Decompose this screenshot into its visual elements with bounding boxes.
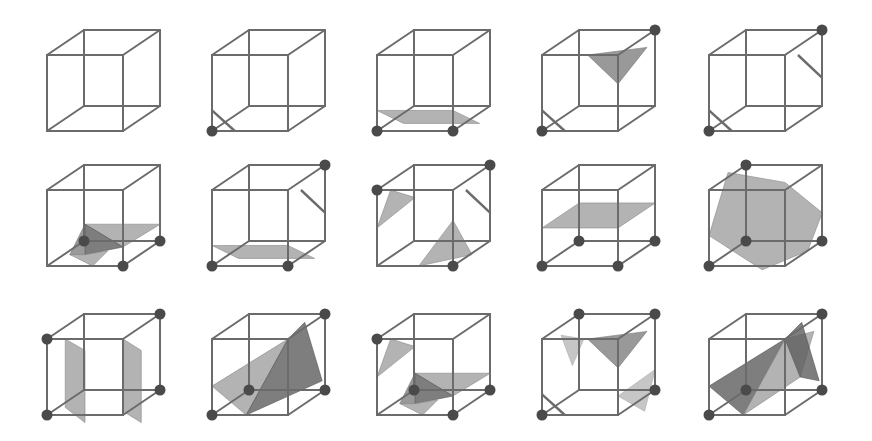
marked-vertex-dot bbox=[817, 309, 828, 320]
cube-edge bbox=[212, 30, 249, 55]
marked-vertex-dot bbox=[650, 309, 661, 320]
cube-case-7 bbox=[372, 160, 496, 272]
cube-case-4 bbox=[704, 25, 828, 137]
cube-edge bbox=[542, 165, 579, 190]
cube-case-8 bbox=[537, 165, 661, 272]
marked-vertex-dot bbox=[537, 261, 548, 272]
marked-vertex-dot bbox=[372, 185, 383, 196]
marked-vertex-dot bbox=[613, 261, 624, 272]
isosurface-triangle bbox=[377, 339, 415, 377]
marked-vertex-dot bbox=[207, 261, 218, 272]
cube-case-0 bbox=[47, 30, 160, 131]
marked-vertex-dot bbox=[817, 385, 828, 396]
cube-edge bbox=[47, 165, 84, 190]
marked-vertex-dot bbox=[817, 25, 828, 36]
cube-edge bbox=[212, 314, 249, 339]
marked-vertex-dot bbox=[155, 309, 166, 320]
cube-edge bbox=[785, 30, 822, 55]
cube-edge bbox=[453, 390, 490, 415]
cube-edge bbox=[542, 314, 579, 339]
isosurface-triangle bbox=[542, 203, 655, 228]
cube-edge bbox=[123, 314, 160, 339]
cube-case-10 bbox=[42, 309, 166, 423]
isosurface-triangle bbox=[65, 339, 85, 423]
marked-vertex-dot bbox=[42, 410, 53, 421]
marked-vertex-dot bbox=[448, 410, 459, 421]
cube-edge bbox=[785, 106, 822, 131]
marching-cubes-figure bbox=[0, 0, 872, 441]
marked-vertex-dot bbox=[704, 410, 715, 421]
cube-cases-grid bbox=[42, 25, 828, 423]
marked-vertex-dot bbox=[118, 261, 129, 272]
marked-vertex-dot bbox=[485, 385, 496, 396]
marked-vertex-dot bbox=[320, 309, 331, 320]
cube-case-11 bbox=[207, 309, 331, 421]
marked-vertex-dot bbox=[155, 236, 166, 247]
cube-edge bbox=[123, 165, 160, 190]
cube-edge bbox=[123, 30, 160, 55]
cube-edge bbox=[618, 106, 655, 131]
cube-edge bbox=[785, 165, 822, 190]
isosurface-sliver bbox=[466, 190, 490, 213]
cube-edge bbox=[453, 314, 490, 339]
isosurface-triangle bbox=[377, 190, 415, 228]
cube-case-9 bbox=[704, 160, 828, 272]
cube-edge bbox=[47, 314, 84, 339]
marked-vertex-dot bbox=[741, 160, 752, 171]
cube-edge bbox=[123, 106, 160, 131]
marked-vertex-dot bbox=[372, 126, 383, 137]
marked-vertex-dot bbox=[79, 236, 90, 247]
marked-vertex-dot bbox=[42, 334, 53, 345]
marked-vertex-dot bbox=[741, 236, 752, 247]
marked-vertex-dot bbox=[650, 236, 661, 247]
cube-case-13 bbox=[537, 309, 661, 421]
cube-edge bbox=[618, 165, 655, 190]
cube-edge bbox=[377, 30, 414, 55]
marked-vertex-dot bbox=[207, 410, 218, 421]
cube-edge bbox=[288, 30, 325, 55]
marked-vertex-dot bbox=[485, 160, 496, 171]
marked-vertex-dot bbox=[372, 334, 383, 345]
cube-edge bbox=[709, 314, 746, 339]
cube-edge bbox=[377, 241, 414, 266]
cube-case-5 bbox=[47, 165, 166, 272]
marked-vertex-dot bbox=[817, 236, 828, 247]
marked-vertex-dot bbox=[741, 385, 752, 396]
cube-edge bbox=[453, 30, 490, 55]
marked-vertex-dot bbox=[537, 410, 548, 421]
cube-edge bbox=[785, 390, 822, 415]
cube-edge bbox=[453, 165, 490, 190]
cube-edge bbox=[377, 314, 414, 339]
cube-case-14 bbox=[704, 309, 828, 421]
marked-vertex-dot bbox=[704, 126, 715, 137]
cube-edge bbox=[123, 241, 160, 266]
cube-edge bbox=[47, 30, 84, 55]
cube-case-3 bbox=[537, 25, 661, 137]
cube-edge bbox=[377, 165, 414, 190]
marked-vertex-dot bbox=[574, 309, 585, 320]
isosurface-triangle bbox=[123, 339, 141, 423]
cube-case-2 bbox=[372, 30, 491, 137]
marked-vertex-dot bbox=[704, 261, 715, 272]
marked-vertex-dot bbox=[155, 385, 166, 396]
isosurface-sliver bbox=[798, 55, 822, 78]
cube-edge bbox=[542, 30, 579, 55]
cube-case-1 bbox=[207, 30, 326, 137]
marked-vertex-dot bbox=[283, 261, 294, 272]
cube-case-12 bbox=[372, 314, 496, 421]
marked-vertex-dot bbox=[409, 385, 420, 396]
marked-vertex-dot bbox=[537, 126, 548, 137]
cube-edge bbox=[618, 241, 655, 266]
cube-edge bbox=[709, 30, 746, 55]
marked-vertex-dot bbox=[448, 261, 459, 272]
marked-vertex-dot bbox=[244, 385, 255, 396]
cube-case-6 bbox=[207, 160, 331, 272]
marked-vertex-dot bbox=[320, 385, 331, 396]
cube-edge bbox=[47, 106, 84, 131]
marked-vertex-dot bbox=[207, 126, 218, 137]
cube-edge bbox=[288, 106, 325, 131]
marked-vertex-dot bbox=[574, 236, 585, 247]
marked-vertex-dot bbox=[320, 160, 331, 171]
cube-edge bbox=[542, 241, 579, 266]
marked-vertex-dot bbox=[650, 385, 661, 396]
